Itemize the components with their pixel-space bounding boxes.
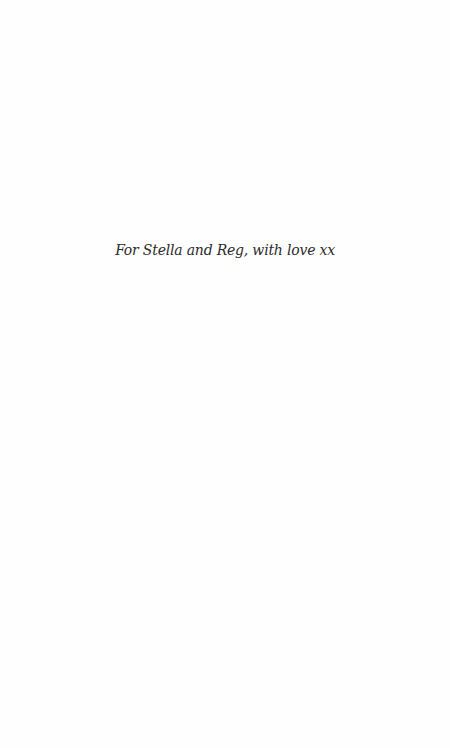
book-page: For Stella and Reg, with love xx — [0, 0, 450, 748]
dedication-text: For Stella and Reg, with love xx — [0, 240, 450, 260]
